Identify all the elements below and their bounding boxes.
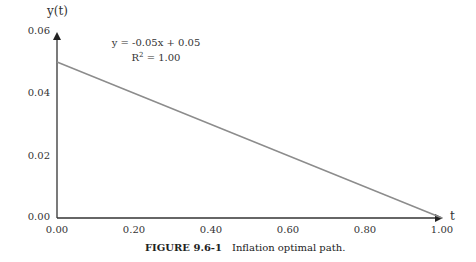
caption-text: Inflation optimal path. <box>232 242 345 253</box>
y-tick-label: 0.00 <box>28 211 50 222</box>
x-tick-label: 0.80 <box>354 224 376 235</box>
x-tick-label: 0.60 <box>277 224 299 235</box>
figure-number: FIGURE 9.6-1 <box>145 242 222 253</box>
r-squared-symbol: R <box>131 52 139 63</box>
x-axis-label: t <box>450 209 455 223</box>
y-axis-label: y(t) <box>47 4 68 18</box>
x-tick-label: 1.00 <box>431 224 453 235</box>
equation-text: y = -0.05x + 0.05 <box>90 37 222 49</box>
r-squared-text: R2 = 1.00 <box>90 49 222 64</box>
x-tick-label: 0.00 <box>46 224 68 235</box>
data-line <box>57 62 442 218</box>
y-tick-label: 0.04 <box>28 87 50 98</box>
r-squared-value: = 1.00 <box>143 52 180 63</box>
x-tick-label: 0.20 <box>123 224 145 235</box>
chart-canvas <box>0 0 476 262</box>
y-tick-label: 0.06 <box>28 25 50 36</box>
figure-caption: FIGURE 9.6-1Inflation optimal path. <box>145 242 345 253</box>
trendline-annotation: y = -0.05x + 0.05 R2 = 1.00 <box>90 37 222 64</box>
x-tick-label: 0.40 <box>200 224 222 235</box>
y-tick-label: 0.02 <box>28 150 50 161</box>
